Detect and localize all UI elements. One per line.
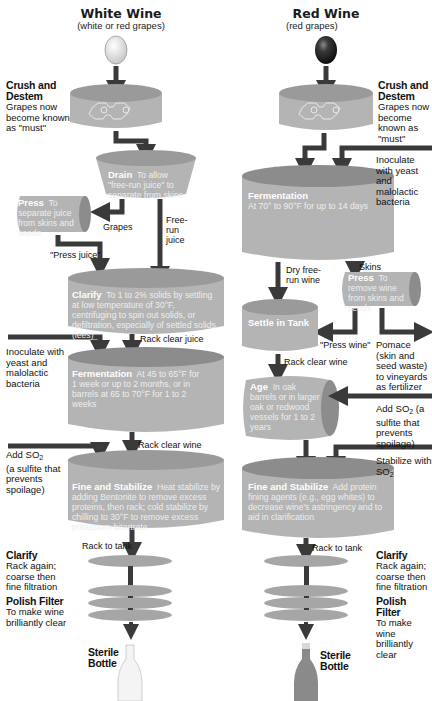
red-clarify2-label: Clarify Rack again; coarse then fine fil… — [376, 550, 432, 593]
white-clarify2-label: Clarify Rack again; coarse then fine fil… — [6, 550, 68, 593]
red-wine-title: Red Wine — [276, 6, 376, 21]
red-rack-clear-wine-label: Rack clear wine — [284, 357, 348, 367]
white-bottle-label: Sterile Bottle — [88, 647, 124, 669]
red-bottle-icon — [294, 645, 318, 701]
white-grape-icon — [105, 36, 127, 64]
white-crush-label: Crush and Destem Grapes now become known… — [6, 80, 70, 134]
white-add-so2-label: Add SO2 (a sulfite that prevents spoilag… — [6, 450, 66, 495]
white-press-text: Press To separate juice from skins and s… — [18, 198, 82, 238]
red-fermentation-tank — [242, 165, 394, 260]
grapes-label: Grapes — [103, 222, 133, 232]
white-wine-title: White Wine — [66, 6, 176, 21]
dry-free-run-label: Dry free-run wine — [286, 265, 322, 285]
skins-label: Skins — [359, 262, 381, 272]
red-fine-stabilize-text: Fine and Stabilize Add protein fining ag… — [248, 482, 390, 522]
red-add-so2-label: Add SO2 (a sulfite that prevents spoilag… — [376, 404, 432, 449]
rack-clear-juice-label: Rack clear juice — [140, 334, 204, 344]
white-drain-text: Drain To allow "free-run juice" to separ… — [108, 170, 190, 200]
red-crusher-vessel — [279, 84, 373, 130]
white-crusher-vessel — [70, 84, 162, 128]
white-inoculate-label: Inoculate with yeast and malolactic bact… — [6, 347, 66, 389]
red-wine-subtitle: (red grapes) — [286, 20, 356, 31]
white-filter-discs — [88, 555, 172, 621]
white-fine-stabilize-text: Fine and Stabilize Heat stabilize by add… — [72, 482, 222, 532]
red-rack-to-tank-label: Rack to tank — [312, 543, 362, 553]
red-age-text: Age In oak barrels or in larger oak or r… — [250, 382, 324, 432]
stabilize-so2-label: Stabilize with SO2 — [376, 456, 432, 480]
white-rack-to-tank-label: Rack to tank — [82, 541, 132, 551]
white-wine-subtitle: (white or red grapes) — [56, 20, 186, 31]
red-fermentation-text: Fermentation At 70° to 90°F for up to 14… — [248, 191, 388, 211]
press-wine-label: "Press wine" — [320, 340, 370, 350]
pomace-label: Pomace (skin and seed waste) to vineyard… — [376, 340, 432, 393]
white-rack-clear-wine-label: Rack clear wine — [138, 440, 202, 450]
red-press-text: Press To remove wine from skins and seed… — [348, 273, 412, 313]
white-polish-label: Polish Filter To make wine brilliantly c… — [6, 596, 68, 628]
white-fermentation-text: Fermentation At 45 to 65°F for 1 week or… — [72, 369, 202, 409]
red-bottle-label: Sterile Bottle — [320, 650, 356, 672]
red-settle-text: Settle in Tank — [248, 318, 318, 328]
red-crush-label: Crush and Destem Grapes now become known… — [378, 80, 432, 144]
red-polish-label: Polish Filter To make wine brilliantly c… — [376, 596, 432, 660]
red-filter-discs — [264, 555, 348, 621]
press-juice-label: "Press juice" — [50, 250, 100, 260]
white-clarify-text: Clarify To 1 to 2% solids by settling at… — [72, 290, 220, 340]
red-grape-icon — [315, 36, 337, 64]
free-run-juice-label: Free-run juice — [166, 215, 196, 245]
